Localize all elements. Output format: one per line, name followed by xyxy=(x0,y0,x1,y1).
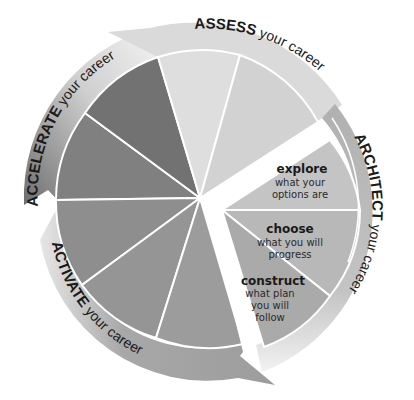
svg-text:choose: choose xyxy=(266,222,313,236)
svg-text:you will: you will xyxy=(251,300,289,311)
svg-text:what your: what your xyxy=(275,177,326,188)
svg-text:follow: follow xyxy=(255,312,285,323)
svg-text:explore: explore xyxy=(277,162,328,176)
career-wheel-diagram: ASSESS your career ACCELERATE your caree… xyxy=(0,0,414,400)
svg-text:construct: construct xyxy=(241,274,305,288)
svg-text:progress: progress xyxy=(268,249,311,260)
svg-text:what you will: what you will xyxy=(257,237,323,248)
svg-text:what plan: what plan xyxy=(245,288,294,299)
svg-text:options are: options are xyxy=(272,189,328,200)
step-explore: explore what your options are xyxy=(272,162,328,200)
